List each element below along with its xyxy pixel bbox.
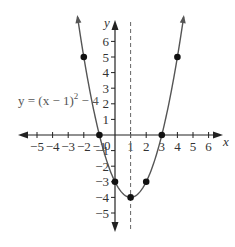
y-tick-label: −4 — [95, 190, 109, 205]
x-tick-label: −4 — [46, 139, 60, 154]
x-axis-right-arrow-icon — [213, 132, 223, 139]
x-tick-label: 2 — [143, 139, 150, 154]
y-tick-label: 4 — [103, 65, 110, 80]
x-tick-label: −2 — [77, 139, 91, 154]
y-tick-label: 3 — [103, 81, 110, 96]
data-point — [127, 194, 134, 201]
curve-right-arrow-icon — [180, 15, 186, 23]
y-tick-label: 5 — [103, 50, 110, 65]
y-axis-up-arrow-icon — [112, 20, 119, 30]
x-tick-label: 5 — [190, 139, 197, 154]
data-point — [112, 179, 119, 186]
origin-label: 0 — [104, 138, 111, 153]
data-point — [81, 54, 88, 61]
y-tick-label: 6 — [103, 34, 110, 49]
data-point — [174, 54, 181, 61]
x-tick-label: 4 — [174, 139, 181, 154]
y-tick-label: 1 — [103, 112, 110, 127]
x-axis-label: x — [222, 134, 229, 149]
y-tick-label: −5 — [95, 206, 109, 221]
x-axis-left-arrow-icon — [18, 132, 28, 139]
y-axis-label: y — [102, 15, 110, 30]
x-tick-label: 6 — [205, 139, 212, 154]
y-axis-down-arrow-icon — [112, 222, 119, 232]
x-tick-label: −5 — [30, 139, 44, 154]
curve-left-arrow-icon — [75, 15, 81, 23]
y-tick-label: 2 — [103, 96, 110, 111]
equation-label: y = (x − 1)2 − 4 — [18, 91, 99, 108]
axes — [18, 20, 223, 232]
data-point — [143, 179, 150, 186]
x-tick-label: −3 — [61, 139, 75, 154]
data-point — [96, 132, 103, 139]
data-point — [159, 132, 166, 139]
y-tick-label: −3 — [95, 174, 109, 189]
parabola-chart: −5−4−3−2−1123456−5−4−3−2−1123456 x y 0 y… — [0, 0, 235, 247]
